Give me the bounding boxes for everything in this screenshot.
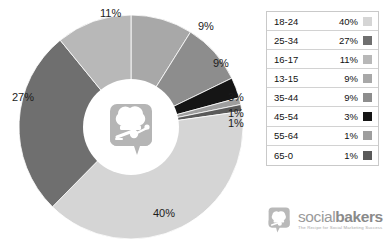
brand-mark-icon — [268, 207, 294, 233]
brand-name-light: social — [298, 208, 335, 225]
donut-chart-svg — [16, 12, 246, 242]
legend-row-value: 9% — [316, 73, 363, 84]
brand-name-bold: bakers — [335, 208, 383, 225]
legend-row-label: 25-34 — [274, 35, 316, 46]
legend-row: 35-449% — [267, 88, 378, 107]
legend-row: 65-01% — [267, 146, 378, 165]
legend-color-swatch-icon — [363, 55, 372, 64]
chart-screenshot: 9%9%3%1%1%40%27%11% 18-2440%25-3427%16-1… — [0, 0, 387, 248]
legend-row-value: 1% — [316, 130, 363, 141]
legend-box: 18-2440%25-3427%16-1711%13-159%35-449%45… — [266, 11, 379, 166]
brand-logo: socialbakers The Recipe for Social Marke… — [268, 203, 384, 237]
donut-chart: 9%9%3%1%1%40%27%11% — [0, 0, 262, 248]
legend-color-swatch-icon — [363, 36, 372, 45]
legend-color-swatch-icon — [363, 151, 372, 160]
legend-color-swatch-icon — [363, 74, 372, 83]
slice-percentage-label: 9% — [198, 20, 214, 32]
legend-row-label: 16-17 — [274, 54, 316, 65]
legend-row-value: 3% — [316, 111, 363, 122]
legend-row-label: 35-44 — [274, 92, 316, 103]
legend-color-swatch-icon — [363, 17, 372, 26]
legend-color-swatch-icon — [363, 112, 372, 121]
slice-percentage-label: 11% — [100, 7, 121, 19]
legend-color-swatch-icon — [363, 131, 372, 140]
brand-wordmark: socialbakers The Recipe for Social Marke… — [298, 209, 384, 230]
slice-percentage-label: 9% — [213, 57, 229, 69]
legend-row-label: 13-15 — [274, 73, 316, 84]
legend-row: 16-1711% — [267, 50, 378, 69]
legend-row: 55-641% — [267, 127, 378, 146]
legend-color-swatch-icon — [363, 93, 372, 102]
legend-row-label: 45-54 — [274, 111, 316, 122]
slice-percentage-label: 3% — [228, 91, 244, 103]
legend-row-label: 55-64 — [274, 130, 316, 141]
legend-row-value: 9% — [316, 92, 363, 103]
legend-row: 25-3427% — [267, 31, 378, 50]
legend-row-value: 11% — [316, 54, 363, 65]
slice-percentage-label: 1% — [228, 117, 244, 129]
brand-tagline: The Recipe for Social Marketing Success — [298, 226, 384, 230]
legend-row-value: 1% — [316, 150, 363, 161]
brand-name: socialbakers — [298, 209, 384, 225]
legend-row-value: 27% — [316, 35, 363, 46]
slice-percentage-label: 27% — [12, 91, 34, 103]
legend-row: 13-159% — [267, 69, 378, 88]
legend-row-label: 18-24 — [274, 16, 316, 27]
legend-row-value: 40% — [316, 16, 363, 27]
slice-percentage-label: 40% — [153, 207, 175, 219]
legend-row: 18-2440% — [267, 12, 378, 31]
legend-row: 45-543% — [267, 107, 378, 126]
legend-row-label: 65-0 — [274, 150, 316, 161]
